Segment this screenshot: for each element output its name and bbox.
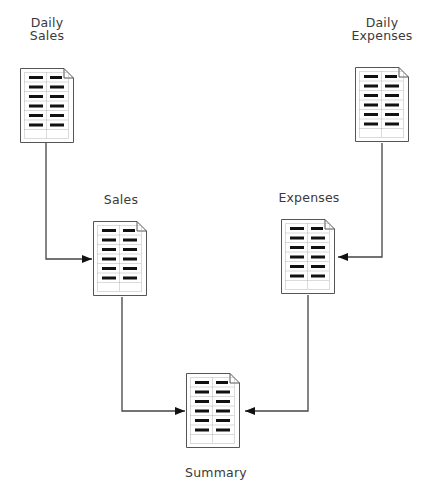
edge-daily-sales-to-sales bbox=[46, 143, 92, 259]
node-label-sales: Sales bbox=[91, 193, 151, 206]
spreadsheet-document-icon bbox=[186, 373, 240, 448]
label-line-2: Sales bbox=[17, 29, 77, 42]
edge-sales-to-summary bbox=[122, 297, 185, 411]
edge-expenses-to-summary bbox=[245, 295, 308, 411]
node-label-expenses: Expenses bbox=[274, 191, 344, 204]
spreadsheet-document-icon bbox=[355, 67, 409, 142]
node-label-daily-expenses: Daily Expenses bbox=[347, 16, 417, 42]
spreadsheet-document-icon bbox=[93, 221, 147, 296]
edge-daily-expenses-to-expenses bbox=[338, 143, 382, 257]
label-line-2: Expenses bbox=[347, 29, 417, 42]
node-label-daily-sales: Daily Sales bbox=[17, 16, 77, 42]
node-label-summary: Summary bbox=[181, 466, 251, 479]
spreadsheet-document-icon bbox=[20, 68, 74, 143]
spreadsheet-document-icon bbox=[281, 219, 335, 294]
